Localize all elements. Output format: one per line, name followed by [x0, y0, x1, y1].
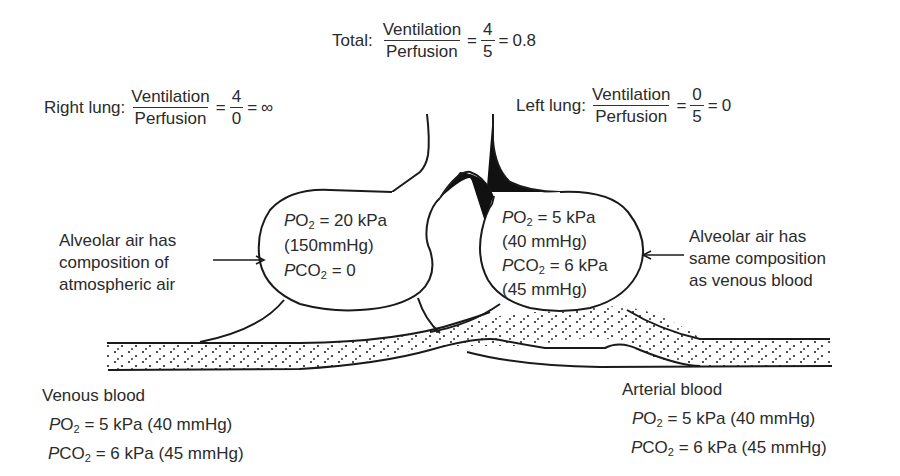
value: = 6 kPa	[545, 256, 608, 275]
arterial-blood-title: Arterial blood	[622, 375, 827, 404]
venous-po2: PO2 = 5 kPa (40 mmHg)	[42, 410, 244, 439]
annotation-line: composition of	[59, 252, 176, 274]
p-symbol: P	[49, 415, 60, 434]
left-alveolus-po2: PO2 = 5 kPa	[502, 206, 608, 230]
left-lung-equals-1: =	[676, 96, 686, 116]
right-lung-ratio: 4 0	[230, 87, 243, 128]
value: = 0	[327, 261, 356, 280]
gas-symbol: O	[60, 415, 73, 434]
left-lung-equation: Left lung: Ventilation Perfusion = 0 5 =…	[516, 85, 731, 126]
right-lung-fraction: Ventilation Perfusion	[129, 87, 211, 128]
left-lung-fraction: Ventilation Perfusion	[590, 85, 672, 126]
left-lung-numerator: Ventilation	[590, 85, 672, 105]
left-alveolus-values: PO2 = 5 kPa (40 mmHg) PCO2 = 6 kPa (45 m…	[502, 206, 608, 302]
gas-symbol: O	[295, 211, 308, 230]
value: = 20 kPa	[315, 211, 387, 230]
venous-blood-title: Venous blood	[42, 381, 244, 410]
left-lung-ratio-den: 5	[690, 105, 703, 126]
right-lung-ratio-num: 4	[230, 87, 243, 107]
total-equals-2: =	[499, 31, 509, 51]
p-symbol: P	[48, 444, 59, 463]
right-lung-denominator: Perfusion	[133, 107, 209, 128]
right-alveolus-po2: PO2 = 20 kPa	[284, 208, 387, 233]
total-result: 0.8	[512, 31, 536, 51]
p-symbol: P	[631, 438, 642, 457]
annotation-line: Alveolar air has	[59, 230, 176, 252]
arterial-pco2: PCO2 = 6 kPa (45 mmHg)	[622, 433, 827, 462]
right-alveolus-po2-mmhg: (150mmHg)	[284, 233, 387, 258]
left-lung-ratio-num: 0	[690, 85, 703, 105]
arterial-po2: PO2 = 5 kPa (40 mmHg)	[622, 404, 827, 433]
blood-vessel	[107, 304, 832, 370]
right-alveolus-values: PO2 = 20 kPa (150mmHg) PCO2 = 0	[284, 208, 387, 283]
total-equation: Total: Ventilation Perfusion = 4 5 = 0.8	[332, 20, 536, 61]
gas-symbol: CO	[59, 444, 85, 463]
gas-symbol: CO	[513, 256, 539, 275]
p-symbol: P	[502, 208, 513, 227]
right-lung-equals-1: =	[216, 98, 226, 118]
left-alveolus-pco2: PCO2 = 6 kPa	[502, 254, 608, 278]
annotation-line: atmospheric air	[59, 274, 176, 296]
right-alveolus-pco2: PCO2 = 0	[284, 258, 387, 283]
gas-symbol: CO	[295, 261, 321, 280]
right-lung-ratio-den: 0	[230, 107, 243, 128]
gas-symbol: CO	[642, 438, 668, 457]
total-ratio-num: 4	[481, 20, 494, 40]
venous-blood-label: Venous blood PO2 = 5 kPa (40 mmHg) PCO2 …	[42, 381, 244, 468]
value: = 6 kPa (45 mmHg)	[674, 438, 827, 457]
right-lung-equals-2: =	[247, 98, 257, 118]
value: = 6 kPa (45 mmHg)	[91, 444, 244, 463]
annotation-venous-composition: Alveolar air has same composition as ven…	[689, 226, 826, 292]
p-symbol: P	[284, 211, 295, 230]
value: = 5 kPa (40 mmHg)	[80, 415, 233, 434]
value: = 5 kPa (40 mmHg)	[663, 409, 816, 428]
annotation-line: as venous blood	[689, 270, 826, 292]
p-symbol: P	[502, 256, 513, 275]
right-lung-result: ∞	[261, 98, 273, 118]
total-fraction: Ventilation Perfusion	[381, 20, 463, 61]
arterial-blood-label: Arterial blood PO2 = 5 kPa (40 mmHg) PCO…	[622, 375, 827, 462]
left-lung-ratio: 0 5	[690, 85, 703, 126]
venous-pco2: PCO2 = 6 kPa (45 mmHg)	[42, 439, 244, 468]
right-lung-equation: Right lung: Ventilation Perfusion = 4 0 …	[44, 87, 273, 128]
gas-symbol: O	[643, 409, 656, 428]
annotation-line: same composition	[689, 248, 826, 270]
left-lung-denominator: Perfusion	[593, 105, 669, 126]
p-symbol: P	[632, 409, 643, 428]
left-alveolus-po2-mmhg: (40 mmHg)	[502, 230, 608, 254]
right-lung-numerator: Ventilation	[129, 87, 211, 107]
annotation-atmospheric-air: Alveolar air has composition of atmosphe…	[59, 230, 176, 296]
annotation-line: Alveolar air has	[689, 226, 826, 248]
total-denominator: Perfusion	[384, 40, 460, 61]
total-numerator: Ventilation	[381, 20, 463, 40]
left-lung-result: 0	[722, 96, 731, 116]
gas-symbol: O	[513, 208, 526, 227]
total-equals-1: =	[467, 31, 477, 51]
right-lung-label: Right lung:	[44, 98, 125, 118]
total-ratio: 4 5	[481, 20, 494, 61]
value: = 5 kPa	[533, 208, 596, 227]
total-label: Total:	[332, 31, 373, 51]
arrow-left-annotation	[213, 256, 264, 264]
arrow-right-annotation	[643, 251, 684, 259]
left-lung-equals-2: =	[708, 96, 718, 116]
p-symbol: P	[284, 261, 295, 280]
total-ratio-den: 5	[481, 40, 494, 61]
left-lung-label: Left lung:	[516, 96, 586, 116]
left-alveolus-pco2-mmhg: (45 mmHg)	[502, 278, 608, 302]
